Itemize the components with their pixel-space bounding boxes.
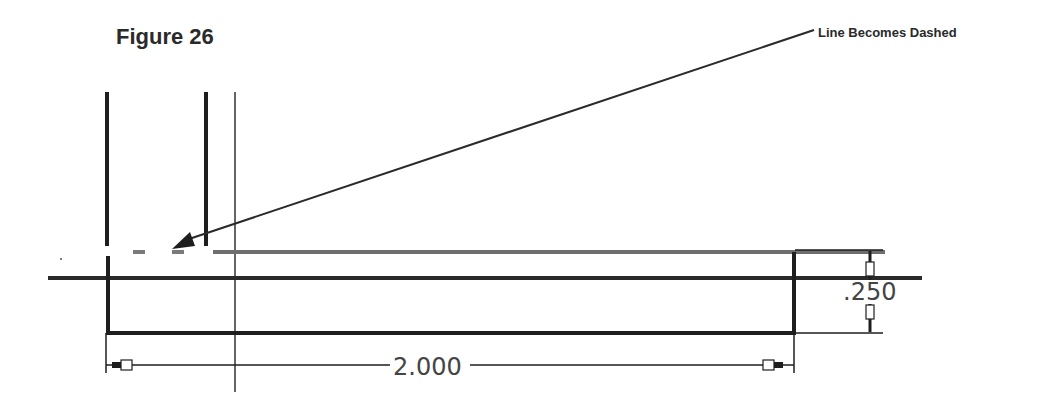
dim-arrow-left [112,362,121,368]
dim-arrow-right [774,362,783,368]
drawing-canvas: Figure 26 Line Becomes Dashed .250 [0,0,1041,411]
dot-marker [60,258,62,260]
dimension-250: .250 [843,278,896,306]
dim-arrow-top [866,262,874,276]
leader-line [183,30,814,241]
dimension-2000: 2.000 [393,353,462,381]
dim-arrow-left-open [121,360,132,370]
dim-arrow-bottom [866,305,874,319]
dim-arrow-right-open [763,360,774,370]
leader-arrowhead [172,232,195,249]
cad-drawing: .250 2.000 [0,0,1041,411]
